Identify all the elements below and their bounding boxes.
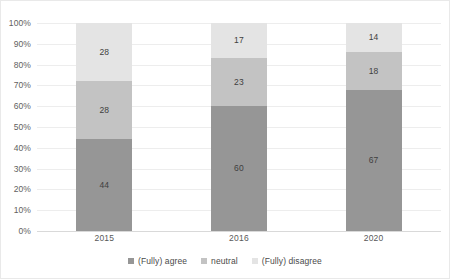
y-axis-tick-label: 70% <box>14 80 31 90</box>
x-axis: 201520162020 <box>37 233 441 251</box>
y-axis-tick-label: 80% <box>14 60 31 70</box>
y-axis-tick-label: 50% <box>14 122 31 132</box>
legend-swatch-icon <box>252 258 258 264</box>
y-axis-tick-label: 100% <box>9 18 31 28</box>
bar-series-container: 282844172360141867 <box>37 23 441 231</box>
stacked-bar-chart: 0%10%20%30%40%50%60%70%80%90%100% 282844… <box>0 0 450 279</box>
bar-segment[interactable]: 14 <box>346 23 402 52</box>
bar-segment[interactable]: 44 <box>76 139 132 231</box>
y-axis-tick-label: 30% <box>14 164 31 174</box>
y-axis: 0%10%20%30%40%50%60%70%80%90%100% <box>1 23 35 231</box>
legend-item[interactable]: (Fully) disagree <box>252 256 322 266</box>
y-axis-tick-label: 40% <box>14 143 31 153</box>
x-axis-category-label: 2016 <box>172 233 307 251</box>
bar-segment-value-label: 28 <box>99 106 109 115</box>
y-axis-tick-label: 90% <box>14 39 31 49</box>
stacked-bar[interactable]: 141867 <box>346 23 402 231</box>
legend-label: (Fully) disagree <box>262 256 322 266</box>
bar-segment[interactable]: 17 <box>211 23 267 58</box>
bar-segment-value-label: 67 <box>369 156 379 165</box>
bar-segment-value-label: 44 <box>99 181 109 190</box>
y-axis-tick-label: 10% <box>14 205 31 215</box>
bar-segment-value-label: 14 <box>369 33 379 42</box>
chart-legend: (Fully) agreeneutral(Fully) disagree <box>1 253 449 269</box>
bar-segment-value-label: 23 <box>234 78 244 87</box>
legend-label: (Fully) agree <box>138 256 187 266</box>
x-axis-category-label: 2015 <box>37 233 172 251</box>
bar-segment[interactable]: 67 <box>346 90 402 231</box>
legend-label: neutral <box>211 256 238 266</box>
legend-swatch-icon <box>128 258 134 264</box>
plot-area: 282844172360141867 <box>37 23 441 231</box>
bar-segment-value-label: 60 <box>234 164 244 173</box>
bar-group: 141867 <box>306 23 441 231</box>
bar-segment[interactable]: 18 <box>346 52 402 90</box>
stacked-bar[interactable]: 172360 <box>211 23 267 231</box>
legend-swatch-icon <box>201 258 207 264</box>
y-axis-tick-label: 0% <box>19 226 32 236</box>
axis-baseline <box>37 231 441 232</box>
legend-item[interactable]: neutral <box>201 256 238 266</box>
bar-segment-value-label: 28 <box>99 48 109 57</box>
bar-segment[interactable]: 60 <box>211 106 267 231</box>
bar-group: 172360 <box>172 23 307 231</box>
bar-segment-value-label: 18 <box>369 67 379 76</box>
y-axis-tick-label: 20% <box>14 184 31 194</box>
x-axis-category-label: 2020 <box>306 233 441 251</box>
legend-item[interactable]: (Fully) agree <box>128 256 187 266</box>
bar-segment[interactable]: 28 <box>76 81 132 139</box>
bar-segment-value-label: 17 <box>234 36 244 45</box>
stacked-bar[interactable]: 282844 <box>76 23 132 231</box>
bar-segment[interactable]: 23 <box>211 58 267 106</box>
y-axis-tick-label: 60% <box>14 101 31 111</box>
bar-group: 282844 <box>37 23 172 231</box>
bar-segment[interactable]: 28 <box>76 23 132 81</box>
